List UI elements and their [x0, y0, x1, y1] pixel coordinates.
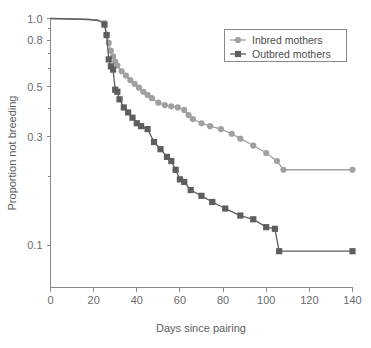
data-point-marker — [198, 193, 204, 199]
legend-label: Inbred mothers — [252, 34, 323, 46]
data-point-marker — [173, 167, 179, 173]
y-tick-label: 0.8 — [27, 34, 42, 46]
y-axis-ticks: 1.00.80.50.30.1 — [27, 13, 50, 252]
data-point-marker — [263, 150, 269, 156]
data-point-marker — [274, 158, 280, 164]
data-point-marker — [116, 96, 122, 102]
data-point-marker — [276, 248, 282, 254]
data-point-marker — [209, 199, 215, 205]
circle-marker — [235, 37, 241, 43]
x-tick-label: 0 — [47, 294, 53, 306]
data-point-marker — [162, 102, 168, 108]
data-point-marker — [123, 72, 129, 78]
data-point-marker — [280, 167, 286, 173]
survival-chart-figure: 1.00.80.50.30.1 020406080100120140 Days … — [0, 0, 371, 348]
x-axis-ticks: 020406080100120140 — [47, 288, 361, 306]
data-point-marker — [168, 158, 174, 164]
data-point-marker — [157, 146, 163, 152]
x-tick-label: 60 — [174, 294, 186, 306]
data-point-marker — [349, 167, 355, 173]
x-tick-label: 40 — [131, 294, 143, 306]
y-tick-label: 0.3 — [27, 131, 42, 143]
y-axis-title: Proportion not breeding — [6, 96, 18, 211]
data-point-marker — [114, 89, 120, 95]
data-point-marker — [103, 32, 109, 38]
data-point-marker — [218, 126, 224, 132]
data-point-marker — [138, 123, 144, 129]
data-point-marker — [237, 136, 243, 142]
data-point-marker — [181, 179, 187, 185]
data-point-marker — [175, 104, 181, 110]
chart-canvas: 1.00.80.50.30.1 020406080100120140 Days … — [0, 0, 371, 348]
x-tick-label: 140 — [343, 294, 361, 306]
data-point-marker — [198, 120, 204, 126]
x-tick-label: 20 — [88, 294, 100, 306]
square-marker — [235, 51, 241, 57]
legend-label: Outbred mothers — [252, 48, 331, 60]
data-point-marker — [110, 66, 116, 72]
data-point-marker — [144, 126, 150, 132]
data-point-marker — [229, 131, 235, 137]
chart-legend: Inbred mothersOutbred mothers — [225, 30, 347, 62]
data-point-marker — [188, 187, 194, 193]
data-point-marker — [250, 216, 256, 222]
x-tick-label: 120 — [300, 294, 318, 306]
data-point-marker — [190, 116, 196, 122]
data-point-marker — [263, 224, 269, 230]
data-point-marker — [250, 142, 256, 148]
y-tick-label: 1.0 — [27, 13, 42, 25]
data-point-marker — [168, 103, 174, 109]
y-tick-label: 0.5 — [27, 81, 42, 93]
data-point-marker — [155, 100, 161, 106]
data-point-marker — [149, 95, 155, 101]
data-point-marker — [129, 115, 135, 121]
y-tick-label: 0.1 — [27, 239, 42, 251]
data-point-marker — [101, 21, 107, 27]
data-point-marker — [349, 248, 355, 254]
data-point-marker — [151, 139, 157, 145]
x-tick-label: 100 — [257, 294, 275, 306]
data-point-marker — [106, 56, 112, 62]
data-point-marker — [207, 123, 213, 129]
x-axis-title: Days since pairing — [156, 322, 246, 334]
data-point-marker — [222, 205, 228, 211]
data-point-marker — [272, 226, 278, 232]
x-tick-label: 80 — [217, 294, 229, 306]
data-point-marker — [237, 212, 243, 218]
data-point-marker — [181, 107, 187, 113]
